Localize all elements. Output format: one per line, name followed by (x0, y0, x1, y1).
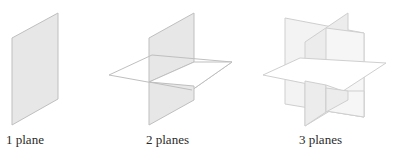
panel-3-label: 3 planes (299, 132, 342, 148)
diagonal-plane-lower (305, 81, 326, 126)
panel-2-label: 2 planes (146, 132, 189, 148)
panel-2-planes (109, 13, 232, 125)
panel-3-planes (263, 13, 386, 126)
panel-1-plane (12, 13, 58, 125)
panel-1-label: 1 plane (6, 132, 44, 148)
vertical-plane (12, 13, 58, 125)
vertical-plane-lower (149, 82, 194, 125)
